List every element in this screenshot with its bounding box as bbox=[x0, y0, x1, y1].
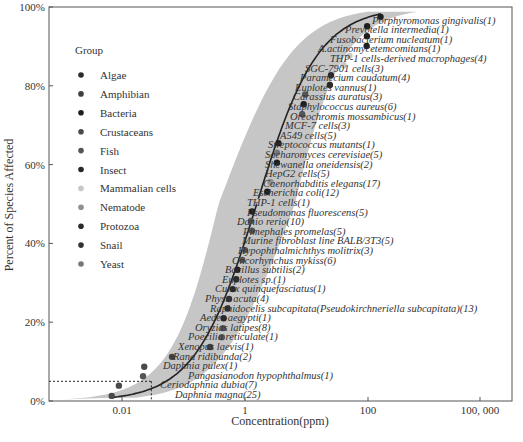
species-label: Oreochromis mossambicus(1) bbox=[290, 111, 416, 123]
legend-item-label: Snail bbox=[100, 239, 123, 251]
species-label: Aedes aegypti(1) bbox=[199, 312, 271, 324]
legend: Group AlgaeAmphibianBacteriaCrustaceansF… bbox=[75, 44, 176, 270]
legend-item-label: Nematode bbox=[100, 201, 145, 213]
legend-marker bbox=[78, 205, 84, 211]
data-point bbox=[140, 373, 146, 379]
data-point bbox=[141, 364, 147, 370]
y-axis-title: Percent of Species Affected bbox=[2, 139, 16, 272]
x-tick-label: 100 bbox=[360, 404, 377, 416]
ssd-chart: Daphnia magna(25)Ceriodaphnia dubia(7)Pa… bbox=[0, 0, 523, 442]
x-tick-label: 100, 000 bbox=[461, 404, 500, 416]
y-tick-label: 40% bbox=[25, 237, 45, 249]
legend-marker bbox=[78, 186, 84, 192]
species-label: Caenorhabditis elegans(17) bbox=[263, 178, 381, 190]
species-label: A549 cells(5) bbox=[279, 130, 337, 142]
y-axis-ticks: 0%20%40%60%80%100% bbox=[19, 1, 53, 407]
species-label: Paramecium caudatum(4) bbox=[299, 72, 410, 84]
species-label: THP-1 cells(1) bbox=[247, 197, 310, 209]
legend-item-label: Crustaceans bbox=[100, 126, 153, 138]
species-label: Hypophthalmichthys molitrix(3) bbox=[237, 245, 374, 257]
species-label: Culex quinquefasciatus(1) bbox=[215, 283, 326, 295]
legend-item-label: Fish bbox=[100, 145, 119, 157]
y-tick-label: 100% bbox=[19, 1, 45, 13]
legend-marker bbox=[78, 148, 84, 154]
legend-item-label: Amphibian bbox=[100, 88, 150, 100]
species-label: Poecilia reticulate(1) bbox=[187, 331, 278, 343]
species-label: Daphnia magna(25) bbox=[174, 389, 261, 401]
legend-marker bbox=[78, 167, 84, 173]
legend-marker bbox=[78, 129, 84, 135]
species-label: Bacillus subtilis(2) bbox=[225, 264, 305, 276]
legend-item-label: Insect bbox=[100, 164, 126, 176]
legend-item-label: Algae bbox=[100, 69, 126, 81]
species-label: MCF-7 cells(3) bbox=[284, 120, 351, 132]
species-label: Rana ridibunda(2) bbox=[172, 351, 252, 363]
species-label: Escherichia coli(12) bbox=[252, 187, 340, 199]
legend-item-label: Bacteria bbox=[100, 107, 137, 119]
species-label: Staphylococcus aureus(6) bbox=[288, 101, 397, 113]
legend-marker bbox=[78, 223, 84, 229]
species-label: Shewanella oneidensis(2) bbox=[265, 159, 373, 171]
legend-marker bbox=[78, 110, 84, 116]
species-label: Pangasianodon hypophthalmus(1) bbox=[187, 370, 333, 382]
y-tick-label: 0% bbox=[30, 395, 45, 407]
legend-marker bbox=[78, 261, 84, 267]
legend-marker bbox=[78, 72, 84, 78]
species-label: Xenopus laevis(1) bbox=[177, 341, 254, 353]
species-label: Oncorhynchus mykiss(6) bbox=[232, 255, 336, 267]
x-axis-title: Concentration(ppm) bbox=[231, 414, 328, 428]
species-label: Danio rerio(10) bbox=[236, 216, 304, 228]
x-tick-label: 0.01 bbox=[112, 404, 131, 416]
species-label: Oryzias latipes(8) bbox=[195, 322, 271, 334]
species-label: THP-1 cells-derived macrophages(4) bbox=[330, 53, 487, 65]
y-tick-label: 20% bbox=[25, 316, 45, 328]
data-point bbox=[108, 393, 114, 399]
y-tick-label: 80% bbox=[25, 80, 45, 92]
species-label: Fusobacterium nucleatum(1) bbox=[329, 34, 453, 46]
species-label: Euplotes vannus(1) bbox=[294, 82, 377, 94]
species-label: Murine fibroblast line BALB/3T3(5) bbox=[241, 235, 394, 247]
species-label: Carassius auratus(3) bbox=[293, 91, 382, 103]
legend-item-label: Yeast bbox=[100, 258, 124, 270]
species-labels: Daphnia magna(25)Ceriodaphnia dubia(7)Pa… bbox=[160, 15, 496, 401]
species-label: Streptococcus mutants(1) bbox=[268, 139, 375, 151]
species-label: SGC-7901 cells(3) bbox=[305, 63, 384, 75]
species-label: HepG2 cells(5) bbox=[264, 168, 330, 180]
legend-title: Group bbox=[75, 44, 104, 56]
species-label: Euplotes sp.(1) bbox=[221, 274, 286, 286]
species-label: Pseudomonas fluorescens(5) bbox=[246, 207, 368, 219]
legend-item-label: Mammalian cells bbox=[100, 182, 176, 194]
data-point bbox=[116, 382, 122, 388]
species-label: Porphyromonas gingivalis(1) bbox=[371, 15, 496, 27]
species-label: Physa acuta(4) bbox=[204, 293, 269, 305]
legend-marker bbox=[78, 242, 84, 248]
species-label: Sacharomyces cerevisiae(5) bbox=[265, 149, 383, 161]
species-label: Pimephales promelas(5) bbox=[242, 226, 346, 238]
species-label: Prevotella intermedia(1) bbox=[344, 24, 449, 36]
species-label: Ceriodaphnia dubia(7) bbox=[160, 379, 258, 391]
species-label: A.actinomycetemcomitans(1) bbox=[317, 43, 441, 55]
legend-item-label: Protozoa bbox=[100, 220, 139, 232]
y-tick-label: 60% bbox=[25, 159, 45, 171]
species-label: Daphnia pulex(1) bbox=[162, 360, 238, 372]
species-label: Raphidocelis subcapitata(Pseudokirchneri… bbox=[209, 303, 478, 315]
legend-marker bbox=[78, 91, 84, 97]
